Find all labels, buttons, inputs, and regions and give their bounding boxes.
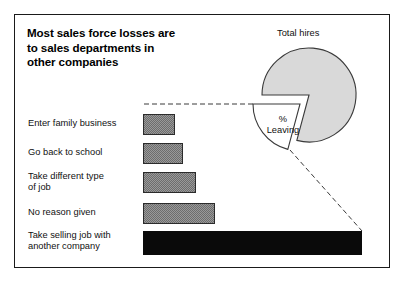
bar-take-selling-job-with-another-company <box>143 231 362 255</box>
pie-label-percent-leaving: % Leaving <box>250 114 316 135</box>
bar-label-take-different-type-of-job: Take different type of job <box>28 171 140 193</box>
bar-go-back-to-school <box>143 143 183 164</box>
bar-label-enter-family-business: Enter family business <box>28 118 140 129</box>
chart-canvas: Most sales force losses are to sales dep… <box>0 0 407 284</box>
pie-chart-group: Total hires % Leaving <box>230 30 380 170</box>
bar-label-take-selling-job-with-another-company: Take selling job with another company <box>28 230 140 252</box>
bar-take-different-type-of-job <box>143 172 196 193</box>
bar-label-go-back-to-school: Go back to school <box>28 147 140 158</box>
pie-label-total-hires: Total hires <box>277 28 319 38</box>
bar-label-no-reason-given: No reason given <box>28 207 140 218</box>
pie-svg <box>230 30 380 170</box>
bar-enter-family-business <box>143 114 175 135</box>
bar-no-reason-given <box>143 203 215 224</box>
